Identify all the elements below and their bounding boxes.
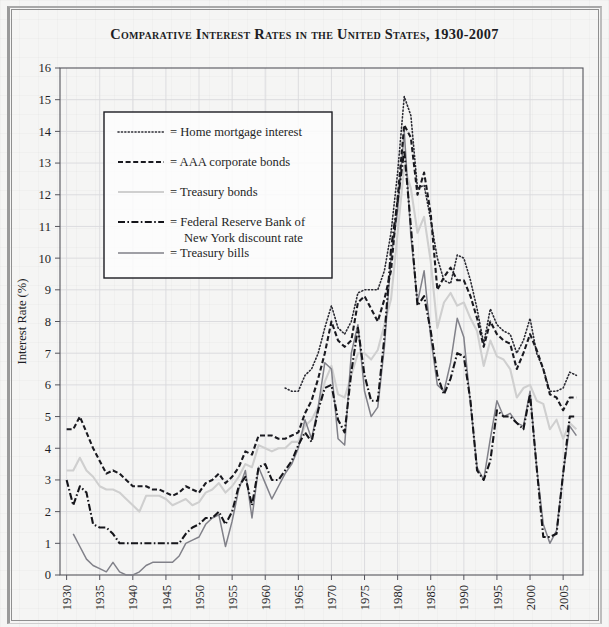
y-tick-label: 5 <box>45 410 51 424</box>
x-axis-ticks: 1930193519401945195019551960196519701975… <box>60 575 571 610</box>
chart-legend: = Home mortgage interest= AAA corporate … <box>104 112 332 278</box>
legend-label-fed_discount: = Federal Reserve Bank of <box>170 215 306 229</box>
x-tick-label: 1985 <box>424 585 438 610</box>
x-tick-label: 2000 <box>524 585 538 610</box>
y-tick-label: 10 <box>38 252 51 266</box>
x-tick-label: 1940 <box>126 585 140 610</box>
legend-label-aaa_corporate: = AAA corporate bonds <box>170 155 290 169</box>
x-tick-label: 1950 <box>193 585 207 610</box>
y-tick-label: 15 <box>38 93 51 107</box>
x-tick-label: 2005 <box>557 585 571 610</box>
y-tick-label: 12 <box>38 188 51 202</box>
x-tick-label: 1970 <box>325 585 339 610</box>
y-tick-label: 9 <box>45 283 51 297</box>
x-tick-label: 1945 <box>160 585 174 610</box>
y-tick-label: 7 <box>45 347 51 361</box>
x-tick-label: 1975 <box>358 585 372 610</box>
y-tick-label: 1 <box>45 537 51 551</box>
x-tick-label: 1955 <box>226 585 240 610</box>
y-tick-label: 16 <box>38 61 51 75</box>
legend-label-home_mortgage: = Home mortgage interest <box>170 125 302 139</box>
legend-label-treasury_bonds: = Treasury bonds <box>170 185 258 199</box>
chart-container: 012345678910111213141516 193019351940194… <box>0 0 609 627</box>
x-tick-label: 1930 <box>60 585 74 610</box>
x-tick-label: 1990 <box>457 585 471 610</box>
y-tick-label: 6 <box>45 378 51 392</box>
y-tick-label: 0 <box>45 568 51 582</box>
y-tick-label: 3 <box>45 473 51 487</box>
y-axis-ticks: 012345678910111213141516 <box>38 61 60 582</box>
x-tick-label: 1965 <box>292 585 306 610</box>
x-tick-label: 1995 <box>491 585 505 610</box>
y-axis-label: Interest Rate (%) <box>15 278 29 364</box>
y-tick-label: 11 <box>39 220 51 234</box>
interest-rates-line-chart: 012345678910111213141516 193019351940194… <box>0 0 609 627</box>
x-tick-label: 1980 <box>391 585 405 610</box>
y-tick-label: 8 <box>45 315 51 329</box>
y-tick-label: 13 <box>38 156 51 170</box>
legend-label-fed_discount-line2: New York discount rate <box>184 231 303 245</box>
y-tick-label: 14 <box>38 125 51 139</box>
x-tick-label: 1935 <box>93 585 107 610</box>
legend-label-treasury_bills: = Treasury bills <box>170 246 249 260</box>
y-tick-label: 2 <box>45 505 51 519</box>
x-tick-label: 1960 <box>259 585 273 610</box>
y-tick-label: 4 <box>45 442 52 456</box>
